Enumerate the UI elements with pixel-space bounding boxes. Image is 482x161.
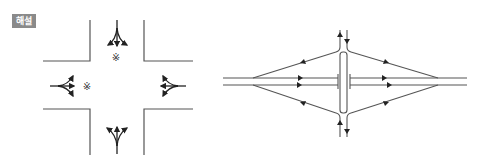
interchange-arrows [297, 32, 392, 134]
movement-arrows [50, 20, 186, 154]
corner-top-right [144, 20, 193, 61]
corner-top-left [43, 20, 90, 61]
conflict-symbol-top: ※ [112, 52, 120, 63]
corner-bottom-left [43, 109, 90, 155]
diagram-canvas: ※ ※ [0, 0, 482, 161]
interchange-diagram [223, 30, 467, 137]
conflict-symbol-left: ※ [83, 81, 91, 92]
corner-bottom-right [144, 109, 193, 155]
